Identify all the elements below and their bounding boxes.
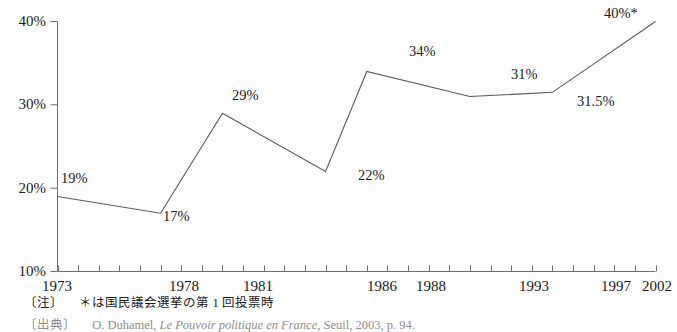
y-axis-ticks (51, 22, 58, 272)
point-label-1986: 22% (358, 168, 385, 183)
source-bracket-label: 〔出典〕 (24, 318, 76, 332)
point-label-2002: 40%* (604, 6, 638, 21)
line-chart-figure: 40% 30% 20% 10% 1973 1978 1981 1986 1988… (0, 0, 677, 332)
x-tick-label-1973: 1973 (25, 279, 89, 294)
point-label-1981: 29% (232, 88, 259, 103)
x-tick-label-2002: 2002 (625, 279, 677, 294)
y-tick-label-20: 20% (4, 181, 46, 196)
source-title: Le Pouvoir politique en France (160, 318, 318, 332)
note-text: ＊は国民議会選挙の第 1 回投票時 (79, 296, 274, 310)
data-series-line (58, 22, 656, 214)
x-tick-label-1993: 1993 (502, 279, 566, 294)
y-tick-label-10: 10% (4, 264, 46, 279)
point-label-1978: 17% (163, 209, 190, 224)
chart-plot-area (0, 0, 677, 332)
x-axis-ticks (59, 266, 657, 272)
note-line: 〔注〕 ＊は国民議会選挙の第 1 回投票時 (24, 296, 274, 312)
source-author: O. Duhamel, (92, 318, 159, 332)
x-tick-label-1981: 1981 (226, 279, 290, 294)
x-tick-label-1988: 1988 (399, 279, 463, 294)
point-label-1993: 31% (511, 67, 538, 82)
point-label-1973: 19% (61, 171, 88, 186)
point-label-1997: 31.5% (577, 94, 614, 109)
x-tick-label-1978: 1978 (152, 279, 216, 294)
point-label-1988: 34% (409, 44, 436, 59)
note-bracket-label: 〔注〕 (24, 296, 63, 310)
source-line: 〔出典〕 O. Duhamel, Le Pouvoir politique en… (24, 318, 415, 332)
y-tick-label-40: 40% (4, 14, 46, 29)
source-publisher: , Seuil, 2003, p. 94. (317, 318, 415, 332)
y-tick-label-30: 30% (4, 97, 46, 112)
